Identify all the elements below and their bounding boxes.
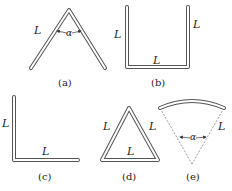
- panel-b: L L L (b): [113, 7, 200, 88]
- label-L-d-bottom: L: [126, 145, 134, 158]
- label-L-e: L: [217, 120, 225, 133]
- panel-c: L L (c): [1, 97, 78, 182]
- panel-a: L α (a): [31, 10, 105, 88]
- label-L-b-bottom: L: [152, 54, 160, 67]
- label-alpha-e: α: [190, 132, 196, 142]
- label-L-c-bottom: L: [41, 145, 49, 158]
- label-L-d-left: L: [102, 120, 110, 133]
- radius-right-dashed: [192, 108, 224, 164]
- caption-e: (e): [186, 171, 200, 182]
- angle-arrow-right: [72, 31, 81, 33]
- label-L-a: L: [33, 24, 41, 37]
- angle-arrow-right-e: [196, 137, 206, 138]
- panel-e: L α (e): [160, 101, 225, 182]
- label-L-c-left: L: [1, 117, 9, 130]
- rod-shapes-diagram: L α (a) L L L (b) L L (c) L L L (d) L α: [0, 0, 232, 191]
- caption-c: (c): [38, 171, 52, 182]
- rod-a-fill: [31, 10, 105, 68]
- label-L-d-right: L: [148, 120, 156, 133]
- radius-left-dashed: [160, 108, 192, 164]
- caption-a: (a): [58, 77, 72, 88]
- panel-d: L L L (d): [102, 108, 158, 182]
- caption-b: (b): [151, 77, 165, 88]
- angle-arrow-left-e: [180, 137, 190, 138]
- caption-d: (d): [122, 171, 136, 182]
- label-alpha-a: α: [66, 28, 72, 38]
- label-L-b-right: L: [192, 18, 200, 31]
- label-L-b-left: L: [113, 28, 121, 41]
- rod-a-outline: [31, 10, 105, 68]
